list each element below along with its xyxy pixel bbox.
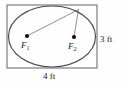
focal-radius-f2 [74,10,79,38]
focus-label-f2: F2 [68,42,77,51]
ellipse-geometry-figure: F1 F2 3 ft 4 ft [0,0,126,86]
focus-label-f2-subscript: 2 [74,46,77,52]
focus-label-f1: F1 [21,41,30,50]
bounding-rectangle [7,5,97,68]
focus-point-f1 [25,34,29,38]
focal-radius-f1 [27,10,79,37]
focus-label-f1-letter: F [21,40,27,50]
inscribed-ellipse [9,6,96,67]
focus-label-f2-letter: F [68,41,74,51]
width-dimension-label: 4 ft [43,72,55,81]
focus-point-f2 [72,35,76,39]
focus-label-f1-subscript: 1 [27,45,30,51]
height-dimension-label: 3 ft [100,35,112,44]
